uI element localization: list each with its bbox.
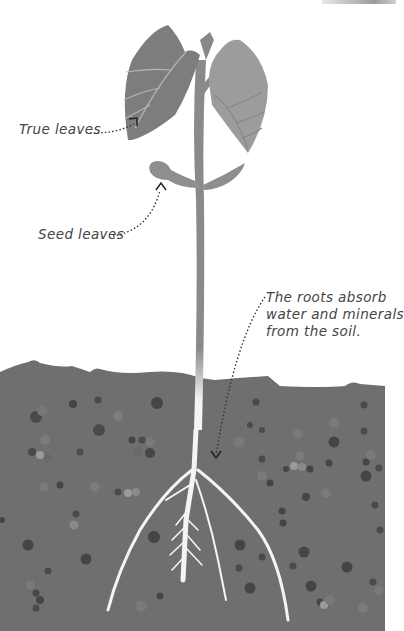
true-leaf-right bbox=[209, 40, 268, 153]
label-roots: The roots absorb water and minerals from… bbox=[266, 289, 404, 340]
roots-line-2: water and minerals bbox=[266, 306, 404, 323]
label-seed-leaves: Seed leaves bbox=[38, 226, 124, 243]
seed-leaf-right bbox=[203, 163, 245, 190]
label-true-leaves: True leaves bbox=[19, 121, 101, 138]
roots-line-3: from the soil. bbox=[266, 323, 404, 340]
seed-leaf-left bbox=[149, 161, 200, 188]
roots-line-1: The roots absorb bbox=[266, 289, 404, 306]
stem bbox=[194, 60, 206, 430]
